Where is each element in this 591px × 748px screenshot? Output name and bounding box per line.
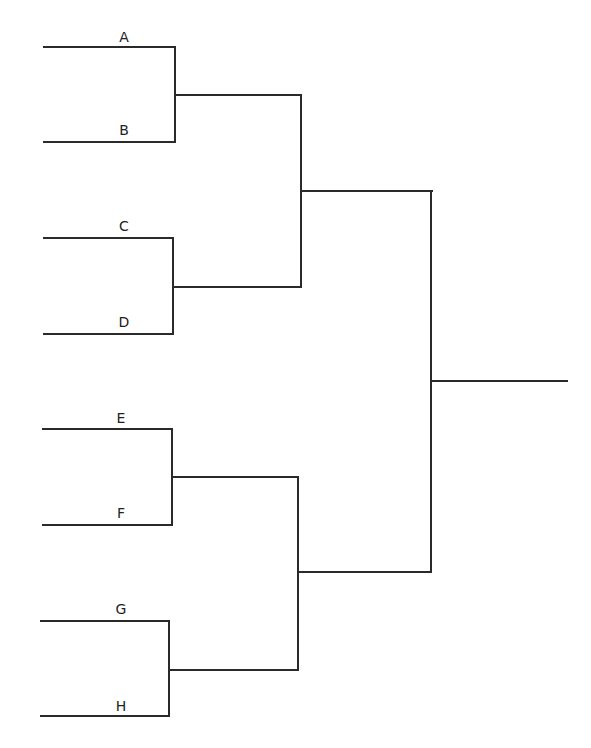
team-label-g: G: [106, 601, 136, 617]
slot-line-b: [43, 141, 176, 143]
slot-line-f: [42, 524, 173, 526]
semifinal-slot-gh: [168, 669, 299, 671]
team-label-f: F: [106, 505, 136, 521]
team-label-a: A: [109, 29, 139, 45]
semifinal-slot-ef: [171, 476, 299, 478]
team-label-h: H: [106, 698, 136, 714]
semifinal-slot-ab: [174, 94, 302, 96]
slot-line-c: [43, 237, 174, 239]
slot-line-e: [42, 428, 173, 430]
slot-line-d: [43, 333, 174, 335]
team-label-e: E: [106, 410, 136, 426]
team-label-b: B: [109, 122, 139, 138]
final-slot-top: [300, 190, 433, 192]
final-slot-bottom: [297, 571, 430, 573]
slot-line-h: [40, 715, 170, 717]
slot-line-a: [43, 46, 176, 48]
team-label-c: C: [109, 218, 139, 234]
winner-slot: [430, 380, 568, 382]
semifinal-bottom-connector: [297, 476, 299, 671]
team-label-d: D: [109, 314, 139, 330]
slot-line-g: [40, 620, 170, 622]
semifinal-slot-cd: [172, 286, 302, 288]
